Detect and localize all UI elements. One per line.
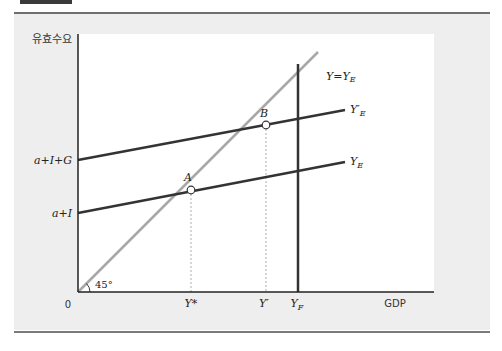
- angle-label: 45°: [95, 279, 113, 290]
- origin-label: 0: [65, 299, 71, 310]
- x-axis-label: GDP: [384, 298, 405, 309]
- point-a: [187, 186, 195, 194]
- x-tick-ystar: Y*: [185, 297, 198, 310]
- y-axis-label: 유효수요: [32, 33, 72, 46]
- intercept-label-aig: a+I+G: [34, 154, 72, 167]
- point-b: [262, 121, 270, 129]
- intercept-label-ai: a+I: [52, 207, 73, 220]
- point-b-label: B: [259, 107, 268, 120]
- x-tick-yprime: Y′: [259, 297, 269, 310]
- svg-text:YF: YF: [291, 297, 304, 312]
- x-tick-yf: YF: [291, 297, 304, 312]
- plot-area: [78, 34, 434, 292]
- point-a-label: A: [183, 171, 192, 184]
- keynesian-cross-diagram: 유효수요 a+I+G a+I 0 45° A B Y=YE Y′E YE Y* …: [0, 0, 502, 351]
